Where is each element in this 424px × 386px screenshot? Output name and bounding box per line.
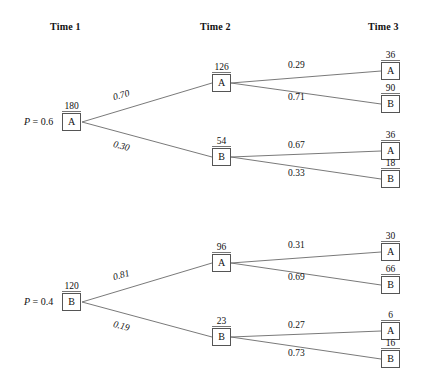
treeA-t3-bb-count: 18	[381, 158, 400, 169]
treeA-stage2-prob-aa: 0.29	[288, 60, 305, 71]
edge-treeA-root-to-a	[82, 83, 212, 122]
treeA-t3-bb-node[interactable]: B	[381, 170, 400, 188]
treeB-t2-a-node[interactable]: A	[212, 254, 231, 272]
treeB-root-probability-value: = 0.4	[30, 296, 53, 307]
treeB-t3-ba-count: 6	[381, 310, 400, 321]
treeA-t2-a-count: 126	[212, 62, 231, 73]
edge-treeB-root-to-b	[82, 302, 212, 337]
treeA-root-count: 180	[62, 101, 81, 112]
treeB-t3-ab-node[interactable]: B	[381, 276, 400, 294]
treeA-t3-aa-node[interactable]: A	[381, 62, 400, 80]
tree-diagram-canvas: Time 1 Time 2 Time 3 P = 0.6 180 A 0.70 …	[0, 0, 424, 386]
treeA-t2-b-node[interactable]: B	[212, 148, 231, 166]
edge-treeB-a-to-a	[231, 252, 381, 263]
treeA-root-node[interactable]: A	[62, 113, 81, 131]
treeB-t3-ab-count: 66	[381, 264, 400, 275]
edge-treeA-root-to-b	[82, 122, 212, 157]
treeB-t2-b-node[interactable]: B	[212, 328, 231, 346]
edge-treeA-b-to-a	[231, 151, 381, 157]
edge-treeB-a-to-b	[231, 263, 381, 285]
edge-treeB-b-to-a	[231, 331, 381, 337]
treeB-t2-b-count: 23	[212, 316, 231, 327]
edge-treeA-b-to-b	[231, 157, 381, 179]
treeA-stage2-prob-ab: 0.71	[288, 92, 305, 103]
edge-treeB-b-to-b	[231, 337, 381, 359]
treeA-t3-aa-count: 36	[381, 50, 400, 61]
treeA-root-probability-label: P = 0.6	[24, 116, 53, 128]
treeA-t2-a-node[interactable]: A	[212, 74, 231, 92]
treeB-stage2-prob-bb: 0.73	[288, 348, 305, 359]
treeA-t3-ab-count: 90	[381, 83, 400, 94]
edge-treeA-a-to-b	[231, 83, 381, 104]
treeA-stage2-prob-ba: 0.67	[288, 140, 305, 151]
treeB-root-probability-label: P = 0.4	[24, 296, 53, 308]
treeB-t3-bb-node[interactable]: B	[381, 350, 400, 368]
treeB-t3-bb-count: 16	[381, 338, 400, 349]
treeA-stage2-prob-bb: 0.33	[288, 168, 305, 179]
treeB-t2-a-count: 96	[212, 242, 231, 253]
treeB-stage2-prob-ab: 0.69	[288, 272, 305, 283]
treeB-stage2-prob-aa: 0.31	[288, 240, 305, 251]
edge-treeA-a-to-a	[231, 71, 381, 83]
treeB-root-count: 120	[62, 281, 81, 292]
treeA-root-probability-value: = 0.6	[30, 116, 53, 127]
edge-treeB-root-to-a	[82, 263, 212, 302]
treeB-t3-aa-count: 30	[381, 231, 400, 242]
treeB-t3-aa-node[interactable]: A	[381, 243, 400, 261]
treeA-t3-ba-count: 36	[381, 130, 400, 141]
treeA-t3-ab-node[interactable]: B	[381, 95, 400, 113]
treeA-t2-b-count: 54	[212, 136, 231, 147]
treeB-stage2-prob-ba: 0.27	[288, 320, 305, 331]
treeB-root-node[interactable]: B	[62, 293, 81, 311]
